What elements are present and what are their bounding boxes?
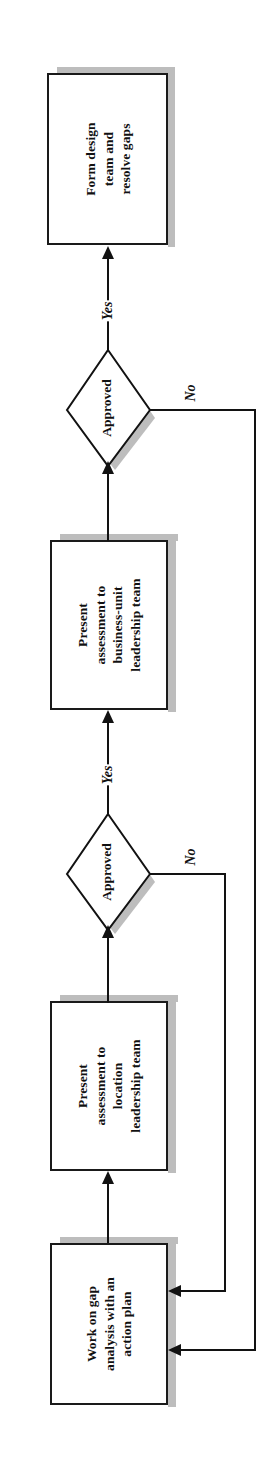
arrowhead-to-form-design: [102, 246, 114, 259]
process-node-present-business-unit[interactable]: Present assessment to business-unit lead…: [50, 540, 168, 710]
decision-node-approved-business-unit[interactable]: Approved: [62, 348, 158, 472]
process-node-present-location[interactable]: Present assessment to location leadershi…: [50, 1001, 168, 1171]
connector-no-top-vertical: [254, 409, 256, 1350]
node-shadow-form-design-right: [168, 67, 175, 247]
edge-label-no-top: No: [183, 383, 199, 402]
process-node-present-location-label: Present assessment to location leadershi…: [74, 1039, 144, 1132]
node-shadow-gap-analysis-right: [168, 1237, 176, 1407]
connector-no-top-horizontal: [150, 409, 256, 411]
arrowhead-to-approved-location: [102, 925, 114, 938]
decision-node-approved-location[interactable]: Approved: [62, 812, 158, 936]
process-node-form-design-team-label: Form design team and resolve gaps: [81, 122, 134, 195]
arrowhead-no-top-return: [168, 1344, 181, 1356]
edge-label-yes-top: Yes: [100, 301, 116, 322]
node-shadow-present-loc-right: [168, 995, 176, 1173]
process-node-present-business-unit-label: Present assessment to business-unit lead…: [74, 578, 144, 671]
arrowhead-no-mid-return: [168, 1285, 181, 1297]
arrowhead-to-present-business-unit: [102, 710, 114, 723]
connector-present-bu-to-approved-bu: [107, 473, 109, 541]
edge-label-no-mid: No: [183, 847, 199, 866]
connector-no-mid-horizontal: [150, 873, 226, 875]
connector-no-mid-return: [180, 1290, 226, 1292]
edge-label-yes-mid: Yes: [100, 765, 116, 786]
decision-node-approved-location-label: Approved: [99, 843, 115, 901]
connector-no-mid-vertical: [224, 873, 226, 1291]
connector-no-top-return: [180, 1349, 256, 1351]
decision-node-approved-business-unit-label: Approved: [99, 379, 115, 437]
flowchart-canvas: Form design team and resolve gaps Yes Ap…: [0, 0, 265, 1480]
process-node-gap-analysis-label: Work on gap analysis with an action plan: [83, 1277, 136, 1371]
arrowhead-to-present-location: [102, 1171, 114, 1184]
connector-present-loc-to-approved-loc: [107, 937, 109, 1003]
process-node-gap-analysis[interactable]: Work on gap analysis with an action plan: [50, 1243, 168, 1405]
process-node-form-design-team[interactable]: Form design team and resolve gaps: [47, 73, 168, 245]
node-shadow-present-bu-right: [168, 534, 176, 712]
arrowhead-to-approved-business-unit: [102, 461, 114, 474]
connector-gap-analysis-to-present-loc: [107, 1183, 109, 1243]
